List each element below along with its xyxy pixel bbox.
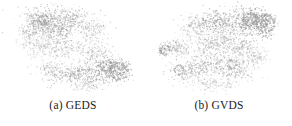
figure-container: (a) GEDS (b) GVDS: [0, 0, 292, 126]
scatter-canvas: [0, 0, 146, 96]
scatter-plot-geds: [0, 0, 146, 96]
scatter-canvas: [146, 0, 292, 96]
subfigure-a-caption: (a) GEDS: [0, 98, 146, 112]
subfigure-b-caption: (b) GVDS: [146, 98, 292, 112]
subfigure-a: (a) GEDS: [0, 0, 146, 126]
scatter-plot-gvds: [146, 0, 292, 96]
subfigure-b: (b) GVDS: [146, 0, 292, 126]
